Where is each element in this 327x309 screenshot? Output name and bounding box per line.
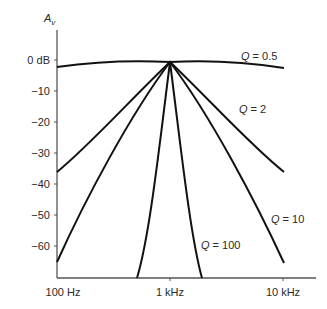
y-tick-label-60: −60	[31, 240, 50, 252]
y-tick-label-10: −10	[31, 85, 50, 97]
y-tick-label-30: −30	[31, 147, 50, 159]
x-tick-label-10khz: 10 kHz	[266, 286, 300, 298]
y-tick-label-20: −20	[31, 116, 50, 128]
label-q-2: Q = 2	[239, 103, 266, 115]
y-tick-label-0: 0 dB	[27, 54, 50, 66]
x-tick-label-100hz: 100 Hz	[46, 286, 81, 298]
bandpass-response-chart: Av 0 dB −10 −20 −30 −40 −50 −60 100 Hz 1…	[0, 0, 327, 309]
curve-q-2	[57, 62, 284, 172]
y-axis-title: Av	[43, 12, 56, 27]
y-tick-label-50: −50	[31, 209, 50, 221]
label-q-0.5: Q = 0.5	[241, 50, 277, 62]
y-tick-label-40: −40	[31, 178, 50, 190]
x-tick-label-1khz: 1 kHz	[156, 286, 184, 298]
label-q-10: Q = 10	[271, 213, 304, 225]
label-q-100: Q = 100	[201, 239, 240, 251]
curve-q-10	[57, 62, 284, 263]
